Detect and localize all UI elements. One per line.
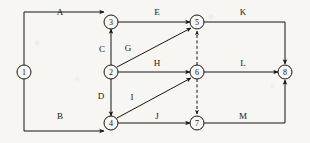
node-4: 4 [104,116,118,130]
node-2: 2 [104,65,118,79]
edge-label-H: H [154,58,161,68]
edge-label-J: J [155,111,159,121]
edge-label-A: A [57,7,64,17]
network-graph: A B C D E G H I J K L M 1 2 3 4 5 [0,0,310,143]
edge-label-K: K [240,7,247,17]
node-6-label: 6 [195,68,199,77]
edge-B [24,79,104,131]
node-2-label: 2 [109,68,113,77]
node-3-label: 3 [109,18,113,27]
node-3: 3 [104,15,118,29]
node-6: 6 [190,65,204,79]
node-8-label: 8 [283,68,287,77]
node-1: 1 [17,65,31,79]
edge-label-E: E [154,7,160,17]
edge-A-path [24,12,104,65]
diagram-canvas: A B C D E G H I J K L M 1 2 3 4 5 [0,0,310,143]
edge-I [117,78,191,118]
edge-label-I: I [131,92,134,102]
edge-I-path [117,78,191,118]
edge-B-path [24,79,104,131]
edge-label-B: B [57,111,63,121]
edge-label-C: C [99,44,105,54]
node-8: 8 [278,65,292,79]
edge-label-D: D [98,91,105,101]
node-7: 7 [190,116,204,130]
node-5: 5 [190,15,204,29]
edge-A [24,12,104,65]
node-1-label: 1 [22,68,26,77]
node-7-label: 7 [195,119,199,128]
edge-label-M: M [239,111,247,121]
edge-label-G: G [125,43,132,53]
node-4-label: 4 [109,119,113,128]
node-5-label: 5 [195,18,199,27]
edge-label-L: L [240,58,246,68]
